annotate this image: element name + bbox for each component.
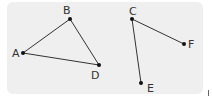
point-d (97, 63, 101, 67)
point-f (182, 42, 186, 46)
point-a (21, 51, 25, 55)
label-d: D (91, 69, 99, 82)
point-e (139, 81, 143, 85)
label-c: C (129, 5, 137, 18)
label-b: B (63, 4, 71, 17)
edge-mark (208, 90, 209, 96)
segment-cf (132, 19, 184, 44)
point-b (68, 17, 72, 21)
segment-ab (23, 19, 70, 53)
geometry-diagram: A B D C F E (0, 0, 212, 99)
label-e: E (147, 82, 154, 95)
label-f: F (188, 38, 194, 51)
segment-ad (23, 53, 99, 65)
label-a: A (12, 47, 20, 60)
segment-bd (70, 19, 99, 65)
segment-ce (132, 19, 141, 83)
